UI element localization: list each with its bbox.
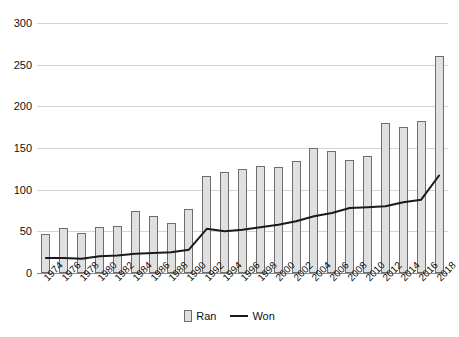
plot-area <box>37 23 448 273</box>
bar-2018 <box>435 56 444 273</box>
bar-2010 <box>363 156 372 274</box>
legend-entry-ran: Ran <box>184 310 216 322</box>
bar-1998 <box>256 166 265 273</box>
bar-2000 <box>274 167 283 273</box>
bar-2012 <box>381 123 390 273</box>
gridline-300 <box>37 23 448 24</box>
chart-legend: Ran Won <box>0 310 459 322</box>
line-swatch-icon <box>230 315 248 317</box>
bar-2016 <box>417 121 426 273</box>
bar-swatch-icon <box>184 310 192 322</box>
bar-1992 <box>202 176 211 274</box>
bar-1994 <box>220 172 229 273</box>
bar-1996 <box>238 169 247 273</box>
y-tick-label-50: 50 <box>2 226 32 237</box>
y-tick-label-0: 0 <box>2 268 32 279</box>
y-tick-label-150: 150 <box>2 143 32 154</box>
bar-2014 <box>399 127 408 273</box>
bar-2006 <box>327 151 336 274</box>
legend-label-won: Won <box>252 310 274 322</box>
gridline-200 <box>37 106 448 107</box>
y-tick-label-100: 100 <box>2 184 32 195</box>
bar-2002 <box>292 161 301 273</box>
bar-2008 <box>345 160 354 273</box>
bar-2004 <box>309 148 318 273</box>
gridline-250 <box>37 65 448 66</box>
legend-entry-won: Won <box>230 310 274 322</box>
y-tick-label-200: 200 <box>2 101 32 112</box>
y-tick-label-300: 300 <box>2 18 32 29</box>
y-tick-label-250: 250 <box>2 59 32 70</box>
legend-label-ran: Ran <box>196 310 216 322</box>
chart-container: 050100150200250300 197419761978198019821… <box>0 0 459 337</box>
